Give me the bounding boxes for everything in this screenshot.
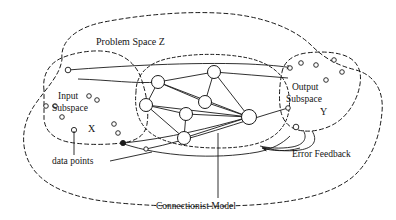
data-point [60,115,65,120]
input-to-network-upper-curve [68,63,292,70]
label-input-variable-x: X [88,123,96,134]
data-points-leader-horizontal [110,152,152,161]
data-point [65,67,71,73]
data-point [112,122,117,127]
label-error-feedback: Error Feedback [292,149,351,159]
label-output-variable-y: Y [320,106,327,117]
label-data-points: data points [52,156,94,166]
data-point [44,104,49,109]
label-problem-space-z: Problem Space Z [96,36,165,47]
net-node [140,99,153,112]
network-nodes [140,66,257,145]
network-to-output-curve [214,72,288,78]
diagram-canvas: Problem Space Z Input Subspace X Output … [0,0,396,220]
label-input-subspace-line2: Subspace [52,103,88,113]
data-point [293,124,299,130]
data-point [324,78,329,83]
label-output-subspace-line1: Output [292,82,319,92]
data-point [87,94,92,99]
net-node [242,110,257,125]
data-point [286,106,291,111]
label-connectionist-model: Connectionist Model [156,201,236,211]
net-edge [146,105,184,138]
data-point [340,70,345,75]
label-input-subspace-line1: Input [58,91,78,101]
data-point [288,66,293,71]
data-point-filled [120,140,125,145]
data-point [314,63,319,68]
net-node [199,96,212,109]
network-to-datapoint-line-b [146,108,288,149]
data-point [332,58,337,63]
net-node [208,66,221,79]
datapoint-lower-sweep [124,136,290,156]
net-node [178,132,191,145]
label-output-subspace-line2: Subspace [286,94,322,104]
diagram-figure: Problem Space Z Input Subspace X Output … [0,0,396,220]
data-point [299,61,304,66]
net-node [152,76,165,89]
error-feedback-curve-inner [260,130,305,148]
data-point [95,98,100,103]
net-node [180,108,193,121]
data-point [116,131,121,136]
input-to-network-lower-curve [78,79,158,83]
net-edge [158,72,214,82]
data-point [144,147,148,151]
